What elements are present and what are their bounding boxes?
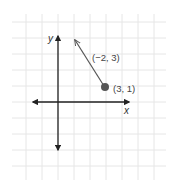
point-label: (3, 1) [113,83,135,94]
coordinate-plane: x y (−2, 3) (3, 1) [0,0,175,191]
vector-label: (−2, 3) [92,52,120,63]
point-marker [101,83,109,91]
x-axis-label: x [123,105,130,116]
grid [12,14,166,180]
y-axis-label: y [47,33,54,44]
